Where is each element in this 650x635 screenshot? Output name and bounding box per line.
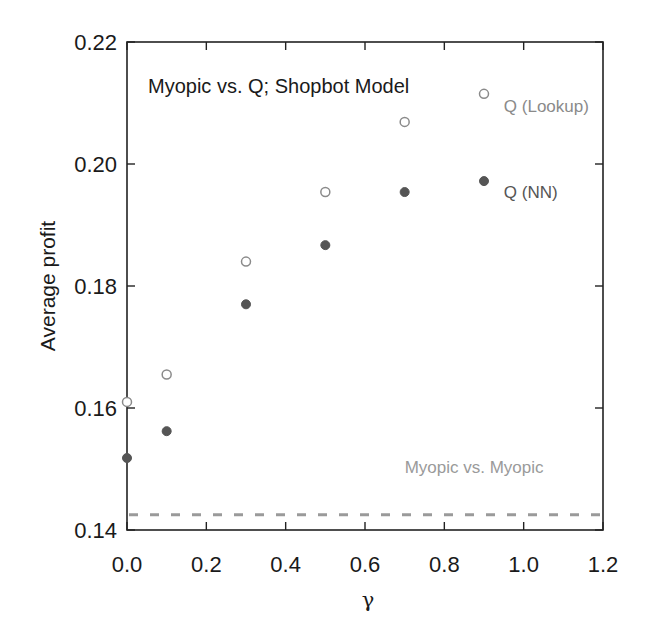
series-annotations: Q (Lookup)Q (NN)Myopic vs. Myopic [405,97,589,477]
nn-data-point [400,188,409,197]
y-axis-label: Average profit [36,221,59,352]
nn-data-point [321,241,330,250]
lookup-data-point [123,397,132,406]
y-tick-label: 0.20 [74,152,117,177]
series-label: Q (NN) [504,183,558,202]
x-tick-label: 1.0 [508,552,539,577]
x-tick-label: 0.4 [270,552,301,577]
x-tick-label: 0.2 [191,552,222,577]
chart-title: Myopic vs. Q; Shopbot Model [148,75,409,97]
lookup-data-point [400,117,409,126]
data-series [123,89,602,514]
x-tick-label: 1.2 [588,552,619,577]
nn-data-point [123,454,132,463]
x-tick-label: 0.0 [112,552,143,577]
series-label: Myopic vs. Myopic [405,458,544,477]
y-tick-label: 0.18 [74,274,117,299]
nn-data-point [480,177,489,186]
scatter-chart: 0.00.20.40.60.81.01.20.140.160.180.200.2… [0,0,650,635]
lookup-data-point [480,89,489,98]
y-tick-label: 0.22 [74,30,117,55]
x-axis-label: γ [362,588,375,612]
nn-data-point [162,427,171,436]
lookup-data-point [162,370,171,379]
nn-data-point [242,300,251,309]
lookup-data-point [321,188,330,197]
series-label: Q (Lookup) [504,97,589,116]
lookup-data-point [242,257,251,266]
x-tick-label: 0.6 [350,552,381,577]
y-tick-label: 0.14 [74,518,117,543]
y-tick-label: 0.16 [74,396,117,421]
x-tick-label: 0.8 [429,552,460,577]
